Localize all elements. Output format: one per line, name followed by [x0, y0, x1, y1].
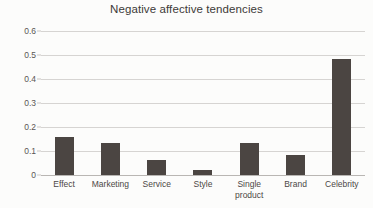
y-tick-label: 0	[31, 170, 36, 180]
bar[interactable]	[55, 137, 74, 175]
x-tick-label: Single product	[226, 179, 272, 200]
bar[interactable]	[332, 59, 351, 175]
x-tick-label: Service	[134, 179, 180, 200]
x-tick-label: Style	[180, 179, 226, 200]
bar[interactable]	[286, 155, 305, 175]
bar-slot	[272, 31, 318, 175]
bar-slot	[180, 31, 226, 175]
bar[interactable]	[193, 170, 212, 175]
y-tick-label: 0.6	[24, 26, 36, 36]
bar[interactable]	[101, 143, 120, 175]
bar[interactable]	[240, 143, 259, 175]
bars-layer	[41, 31, 365, 175]
axis-baseline	[41, 175, 365, 176]
bar-slot	[134, 31, 180, 175]
bar[interactable]	[147, 160, 166, 175]
bar-slot	[41, 31, 87, 175]
x-axis-labels: EffectMarketingServiceStyleSingle produc…	[41, 179, 365, 200]
y-axis: 0.60.50.40.30.20.10	[0, 31, 36, 175]
y-tick-label: 0.5	[24, 50, 36, 60]
bar-chart: Negative affective tendencies 0.60.50.40…	[0, 0, 373, 208]
y-tick-label: 0.2	[24, 122, 36, 132]
bar-slot	[226, 31, 272, 175]
y-tick-label: 0.3	[24, 98, 36, 108]
x-tick-label: Brand	[272, 179, 318, 200]
bar-slot	[319, 31, 365, 175]
x-tick-label: Effect	[41, 179, 87, 200]
chart-title: Negative affective tendencies	[0, 3, 373, 15]
x-tick-label: Marketing	[87, 179, 133, 200]
y-tick-label: 0.4	[24, 74, 36, 84]
y-tick-label: 0.1	[24, 146, 36, 156]
bar-slot	[87, 31, 133, 175]
x-tick-label: Celebrity	[319, 179, 365, 200]
